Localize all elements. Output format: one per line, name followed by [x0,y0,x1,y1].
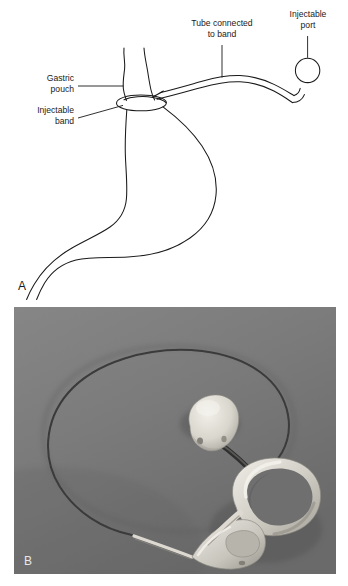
figure-container: Gastric pouch Injectable band Tube conne… [0,0,348,586]
label-injectable-port-line2: port [301,20,316,30]
label-gastric-pouch-line1: Gastric [47,73,75,83]
panel-letter-b: B [24,554,32,568]
injectable-port-circle [295,58,319,82]
leader-injectable-band [78,105,123,118]
panel-b-photograph: B [14,307,336,574]
band-buckle-eyelet [239,561,245,565]
band-buckle-tongue [226,531,260,558]
panel-letter-a: A [18,279,26,293]
label-tube-connected-to-band-line1: Tube connected [191,18,253,28]
label-tube-connected-to-band-line2: to band [208,29,237,39]
tube-upper-edge [161,76,294,96]
port-notch-right [221,436,226,442]
label-gastric-pouch-line2: pouch [51,84,75,94]
injectable-band-outline [117,95,167,111]
label-injectable-band-line2: band [55,116,74,126]
esophagus-left-wall [123,48,126,101]
port-neck-left [294,88,300,95]
port-septum-highlight [196,400,220,416]
tube-lower-edge [157,82,292,103]
label-injectable-port-line1: Injectable [290,9,327,19]
stomach-left-wall [27,110,127,300]
caption-cutoff-sliver [14,576,336,584]
label-injectable-band-line1: Injectable [37,105,74,115]
panel-a-line-drawing: Gastric pouch Injectable band Tube conne… [0,0,348,300]
stomach-greater-curvature [37,107,217,300]
esophagus-right-wall [144,48,155,100]
